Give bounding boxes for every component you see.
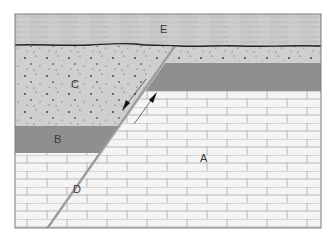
layer-C-right (163, 46, 321, 63)
label-D: D (73, 183, 81, 195)
label-E: E (160, 23, 167, 35)
geologic-cross-section: E C B A D (0, 0, 334, 242)
label-C: C (71, 78, 79, 90)
label-B: B (54, 133, 61, 145)
layer-shale-right (143, 63, 321, 91)
layer-E (15, 14, 321, 46)
label-A: A (200, 152, 208, 164)
